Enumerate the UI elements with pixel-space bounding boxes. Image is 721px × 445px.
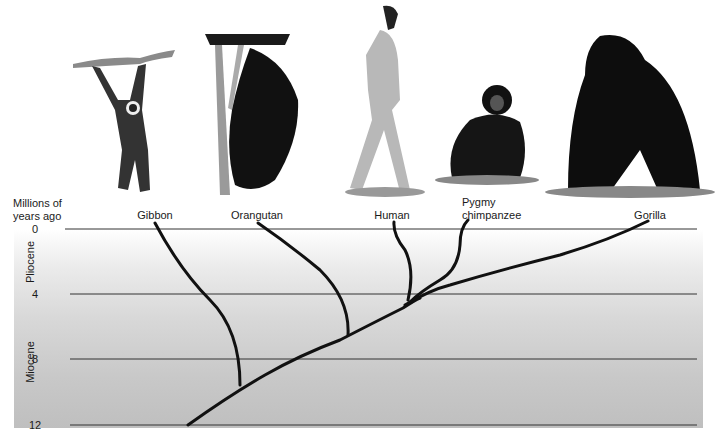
branch-orangutan xyxy=(258,223,348,335)
phylogenetic-tree xyxy=(0,0,721,445)
branch-gibbon xyxy=(155,223,240,385)
branch-gorilla xyxy=(405,221,648,305)
time-gridlines xyxy=(65,229,697,425)
branch-human xyxy=(394,222,411,300)
